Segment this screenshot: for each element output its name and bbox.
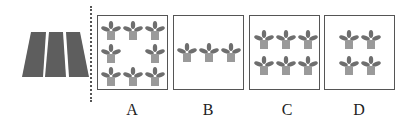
plant-icon <box>276 30 296 50</box>
plant-icon <box>361 30 381 50</box>
option-c-label: C <box>272 101 302 119</box>
plant-icon <box>254 56 274 76</box>
plant-icon <box>145 21 165 41</box>
option-b-label: B <box>193 101 223 119</box>
plant-icon <box>123 67 143 87</box>
plant-icon <box>276 56 296 76</box>
plant-icon <box>298 56 318 76</box>
plant-icon <box>199 43 219 63</box>
plant-icon <box>339 30 359 50</box>
option-a-box[interactable] <box>97 15 168 90</box>
plant-icon <box>361 56 381 76</box>
plant-icon <box>101 21 121 41</box>
plant-icon <box>145 44 165 64</box>
option-d-box[interactable] <box>324 15 395 90</box>
plant-icon <box>221 43 241 63</box>
plant-icon <box>339 56 359 76</box>
plant-icon <box>177 43 197 63</box>
option-b-box[interactable] <box>173 15 244 90</box>
plant-icon <box>298 30 318 50</box>
plant-icon <box>145 67 165 87</box>
dotted-divider <box>90 6 92 102</box>
plant-icon <box>101 67 121 87</box>
option-a-label: A <box>117 101 147 119</box>
option-c-box[interactable] <box>249 15 320 90</box>
plant-icon <box>254 30 274 50</box>
plant-icon <box>123 21 143 41</box>
field-strips-icon <box>0 0 90 121</box>
option-d-label: D <box>344 101 374 119</box>
plant-icon <box>101 44 121 64</box>
